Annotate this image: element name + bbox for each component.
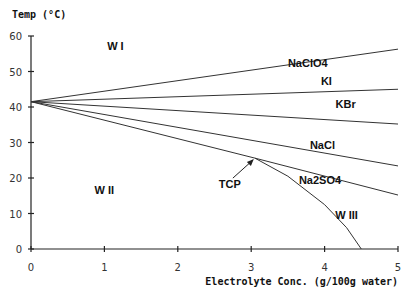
series-label: NaCl: [310, 139, 335, 151]
series-label: KBr: [336, 98, 357, 110]
region-label: W II: [95, 184, 115, 196]
series-line-naclo4: [31, 49, 398, 102]
series-label: KI: [321, 75, 332, 87]
annotation-label: TCP: [219, 178, 241, 190]
x-tick-label: 1: [101, 262, 107, 273]
series-label: Na2SO4: [299, 174, 342, 186]
labels: NaClO4KIKBrNaClNa2SO4W IW IIW IIITCP: [95, 40, 358, 221]
axes: 0102030405060012345: [9, 31, 401, 273]
y-tick-label: 50: [9, 67, 22, 78]
series-line-nacl: [31, 102, 398, 166]
x-tick-label: 4: [321, 262, 327, 273]
y-tick-label: 0: [16, 244, 22, 255]
region-label: W I: [107, 40, 124, 52]
x-tick-label: 3: [248, 262, 254, 273]
y-tick-label: 40: [9, 102, 22, 113]
x-axis-title: Electrolyte Conc. (g/100g water): [205, 276, 398, 287]
x-tick-label: 5: [395, 262, 401, 273]
y-tick-label: 30: [9, 138, 22, 149]
x-tick-label: 2: [175, 262, 181, 273]
phase-diagram-chart: Temp (°C) Electrolyte Conc. (g/100g wate…: [0, 0, 406, 297]
series-label: NaClO4: [288, 57, 329, 69]
y-axis-title: Temp (°C): [12, 9, 66, 20]
y-tick-label: 10: [9, 209, 22, 220]
series-line-na2so4: [31, 102, 398, 195]
y-tick-label: 20: [9, 173, 22, 184]
x-tick-label: 0: [28, 262, 34, 273]
y-tick-label: 60: [9, 31, 22, 42]
region-label: W III: [335, 209, 358, 221]
